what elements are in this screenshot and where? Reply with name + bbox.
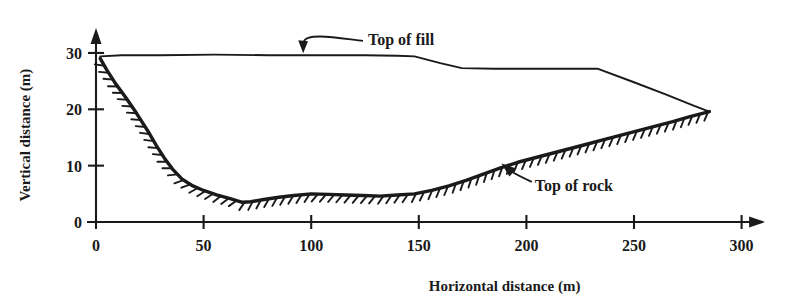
x-tick-label: 300 <box>730 237 754 254</box>
hatch-tick <box>181 184 190 187</box>
top-of-rock-line <box>100 59 709 203</box>
hatch-tick <box>213 196 221 202</box>
hatch-tick <box>122 106 132 107</box>
hatch-tick <box>144 140 154 141</box>
top-of-fill-line <box>100 55 709 112</box>
y-tick-label: 0 <box>74 214 82 231</box>
x-tick-label: 150 <box>407 237 431 254</box>
hatch-tick <box>168 174 178 175</box>
hatch-tick <box>205 194 213 199</box>
x-tick-label: 0 <box>92 237 100 254</box>
hatch-tick <box>95 64 105 65</box>
x-tick-label: 100 <box>299 237 323 254</box>
x-tick-label: 250 <box>622 237 646 254</box>
hatch-tick <box>221 198 229 204</box>
top-of-rock-leader-line <box>511 171 531 181</box>
x-axis-title: Horizontal distance (m) <box>429 278 581 295</box>
top-of-rock-annotation-label: Top of rock <box>535 177 613 195</box>
hatch-tick <box>148 147 158 148</box>
y-tick-label: 10 <box>66 158 82 175</box>
hatch-tick <box>136 126 146 127</box>
hatch-tick <box>197 191 205 196</box>
y-axis-arrow-icon <box>91 28 102 44</box>
hatch-tick <box>99 72 109 73</box>
hatch-tick <box>189 188 197 193</box>
top-of-fill-leader-line <box>304 36 363 43</box>
y-tick-label: 20 <box>66 101 82 118</box>
x-axis-arrow-icon <box>749 217 765 228</box>
hatch-tick <box>229 201 237 207</box>
hatch-tick <box>127 113 137 114</box>
y-axis-title: Vertical distance (m) <box>17 69 34 202</box>
y-tick-label: 30 <box>66 45 82 62</box>
top-of-fill-arrow-icon <box>298 40 308 53</box>
hatch-tick <box>153 154 163 155</box>
x-tick-label: 200 <box>514 237 538 254</box>
x-tick-label: 50 <box>196 237 212 254</box>
hatch-tick <box>103 79 113 80</box>
hatch-tick <box>140 133 150 134</box>
hatch-tick <box>131 119 141 120</box>
top-of-fill-annotation-label: Top of fill <box>368 31 435 49</box>
hatch-tick <box>174 180 183 183</box>
hatch-tick <box>118 99 128 100</box>
cross-section-chart: 0501001502002503000102030Horizontal dist… <box>0 0 799 301</box>
